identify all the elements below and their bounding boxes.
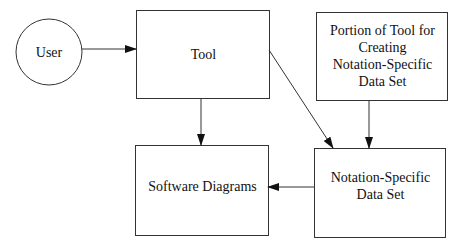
portion-label-line2: Creating	[358, 39, 406, 56]
portion-label: Portion of Tool for Creating Notation-Sp…	[317, 16, 448, 96]
portion-label-line3: Notation-Specific	[333, 56, 433, 73]
user-label-text: User	[36, 44, 62, 61]
tool-label-text: Tool	[191, 46, 216, 63]
tool-label: Tool	[137, 38, 270, 70]
notation-data-label-line1: Notation-Specific	[331, 169, 431, 186]
portion-label-line1: Portion of Tool for	[330, 22, 435, 39]
user-label: User	[16, 36, 82, 68]
software-diagrams-label-text: Software Diagrams	[148, 178, 256, 195]
notation-data-label: Notation-Specific Data Set	[315, 166, 446, 206]
software-diagrams-label: Software Diagrams	[136, 170, 269, 202]
notation-data-label-line2: Data Set	[357, 186, 405, 203]
portion-label-line4: Data Set	[359, 73, 407, 90]
